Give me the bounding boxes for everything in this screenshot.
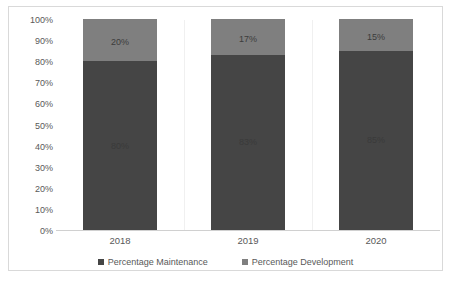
- bar-segment-maintenance-2020[interactable]: 85%: [339, 51, 413, 230]
- figure-container: 100% 90% 80% 70% 60% 50% 40% 30% 20% 10%…: [0, 0, 461, 295]
- y-axis-tick-100: 100%: [17, 15, 53, 25]
- y-axis-tick-90: 90%: [17, 36, 53, 46]
- legend-item-development[interactable]: Percentage Development: [242, 257, 354, 267]
- y-axis-tick-30: 30%: [17, 163, 53, 173]
- x-axis-tick-2019: 2019: [211, 235, 285, 247]
- x-axis-line: [56, 230, 440, 231]
- bar-segment-maintenance-2018[interactable]: 80%: [83, 61, 157, 230]
- y-axis-tick-10: 10%: [17, 205, 53, 215]
- y-axis-tick-80: 80%: [17, 57, 53, 67]
- bar-segment-development-2018[interactable]: 20%: [83, 19, 157, 61]
- bar-label-maintenance-2018: 80%: [83, 141, 157, 151]
- bar-label-development-2018: 20%: [83, 37, 157, 47]
- bar-label-development-2020: 15%: [339, 32, 413, 42]
- y-axis-tick-40: 40%: [17, 142, 53, 152]
- x-axis-tick-2020: 2020: [339, 235, 413, 247]
- legend-swatch-icon-maintenance: [98, 259, 104, 265]
- bar-group-2018[interactable]: 20% 80%: [83, 19, 157, 230]
- x-axis-labels: 2018 2019 2020: [56, 235, 440, 251]
- legend-label-development: Percentage Development: [252, 257, 354, 267]
- chart-legend: Percentage Maintenance Percentage Develo…: [9, 257, 442, 267]
- y-axis-tick-0: 0%: [17, 226, 53, 236]
- plot-area: 20% 80% 17% 83%: [56, 20, 440, 231]
- bar-segment-development-2019[interactable]: 17%: [211, 19, 285, 55]
- category-separator: [184, 20, 185, 231]
- legend-swatch-icon-development: [242, 259, 248, 265]
- y-axis-tick-70: 70%: [17, 78, 53, 88]
- bar-segment-development-2020[interactable]: 15%: [339, 19, 413, 51]
- x-axis-tick-2018: 2018: [83, 235, 157, 247]
- y-axis-labels: 100% 90% 80% 70% 60% 50% 40% 30% 20% 10%…: [17, 20, 53, 231]
- bar-group-2019[interactable]: 17% 83%: [211, 19, 285, 230]
- y-axis-tick-20: 20%: [17, 184, 53, 194]
- legend-label-maintenance: Percentage Maintenance: [108, 257, 208, 267]
- y-axis-tick-50: 50%: [17, 121, 53, 131]
- bar-label-maintenance-2019: 83%: [211, 137, 285, 147]
- chart-frame: 100% 90% 80% 70% 60% 50% 40% 30% 20% 10%…: [8, 6, 443, 271]
- category-separator: [312, 20, 313, 231]
- legend-item-maintenance[interactable]: Percentage Maintenance: [98, 257, 208, 267]
- y-axis-tick-60: 60%: [17, 99, 53, 109]
- bar-label-maintenance-2020: 85%: [339, 135, 413, 145]
- bar-label-development-2019: 17%: [211, 34, 285, 44]
- plot-inner: 20% 80% 17% 83%: [56, 20, 440, 231]
- bar-group-2020[interactable]: 15% 85%: [339, 19, 413, 230]
- bar-segment-maintenance-2019[interactable]: 83%: [211, 55, 285, 230]
